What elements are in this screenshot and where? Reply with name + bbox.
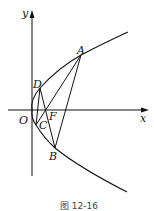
y-axis-arrow-icon <box>30 10 35 18</box>
point-d-label: D <box>32 78 42 91</box>
point-f-label: F <box>48 110 57 123</box>
figure-canvas: y x O A B C D F 图 12-16 <box>0 0 154 211</box>
segment-ca <box>36 55 81 125</box>
segment-ab <box>55 55 81 148</box>
x-axis-label: x <box>140 112 147 125</box>
point-c-label: C <box>39 119 48 132</box>
y-axis-label: y <box>21 7 29 20</box>
origin-label: O <box>19 114 28 127</box>
point-b-label: B <box>48 150 57 163</box>
point-a-label: A <box>76 44 85 57</box>
figure-caption: 图 12-16 <box>60 201 98 211</box>
